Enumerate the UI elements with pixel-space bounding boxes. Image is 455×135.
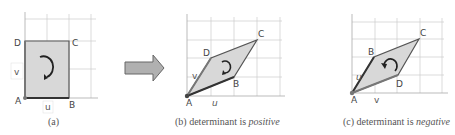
caption-a: (a) <box>48 116 59 127</box>
label-C: C <box>72 38 78 48</box>
label-u: u <box>212 98 218 108</box>
label-B: B <box>69 100 75 110</box>
unit-square <box>25 41 69 98</box>
panel-b: v u A B C D <box>185 14 285 108</box>
label-A: A <box>15 96 22 106</box>
label-B: B <box>233 79 239 89</box>
label-D: D <box>203 48 210 58</box>
caption-c-emphasis: negative <box>416 116 450 127</box>
label-v: v <box>374 95 380 105</box>
right-arrow-icon <box>125 55 164 81</box>
caption-b-text: (b) determinant is <box>175 116 249 127</box>
label-D: D <box>14 38 21 48</box>
caption-a-text: (a) <box>48 116 59 127</box>
origin-point <box>23 96 27 100</box>
parallelogram <box>187 40 257 96</box>
panel-c: u v A B C D <box>350 14 448 105</box>
caption-b-emphasis: positive <box>249 116 280 127</box>
caption-c-text: (c) determinant is <box>343 116 416 127</box>
label-C: C <box>420 28 426 38</box>
label-A: A <box>186 98 193 108</box>
caption-c: (c) determinant is negative <box>343 116 450 127</box>
label-u: u <box>356 72 362 82</box>
label-u: u <box>45 102 51 112</box>
label-B: B <box>368 47 374 57</box>
label-D: D <box>396 79 403 89</box>
figure: v u A B C D <box>0 0 455 135</box>
label-A: A <box>351 95 358 105</box>
label-v: v <box>192 71 198 81</box>
panel-a: v u A B C D <box>11 12 98 113</box>
caption-b: (b) determinant is positive <box>175 116 280 127</box>
label-C: C <box>258 29 264 39</box>
label-v: v <box>14 67 20 77</box>
